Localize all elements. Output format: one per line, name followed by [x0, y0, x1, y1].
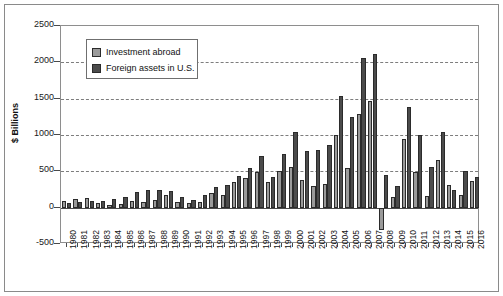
bar: [248, 168, 252, 208]
bar: [327, 145, 331, 207]
x-axis-tick-label: 1990: [182, 230, 191, 249]
x-axis-tick-label: 2016: [477, 230, 486, 249]
bar: [293, 132, 297, 208]
bar: [463, 171, 467, 207]
y-axis-tick-label: -500: [8, 238, 54, 247]
bar: [384, 175, 388, 208]
x-axis-tick-label: 2009: [398, 230, 407, 249]
bar: [452, 190, 456, 208]
bar: [429, 167, 433, 208]
bar: [67, 203, 71, 208]
x-axis-tick-label: 1983: [103, 230, 112, 249]
bar: [300, 180, 304, 208]
x-axis-tick-label: 1999: [284, 230, 293, 249]
bar: [436, 160, 440, 207]
bar: [271, 177, 275, 208]
chart-legend: Investment abroad Foreign assets in U.S.: [86, 39, 198, 79]
bar: [78, 202, 82, 208]
legend-item-investment-abroad: Investment abroad: [92, 44, 192, 60]
bar: [316, 150, 320, 208]
y-axis-tick-label: 1000: [8, 129, 54, 138]
x-axis-tick-label: 1980: [69, 230, 78, 249]
x-axis-tick-label: 2010: [409, 230, 418, 249]
bar: [187, 203, 191, 208]
bar: [232, 182, 236, 208]
bar: [164, 195, 168, 207]
bar: [289, 167, 293, 208]
x-axis-tick-label: 2007: [375, 230, 384, 249]
bar: [157, 190, 161, 208]
x-axis-tick-label: 2012: [432, 230, 441, 249]
bar: [191, 200, 195, 208]
bar: [243, 178, 247, 208]
x-axis-tick-label: 1993: [216, 230, 225, 249]
bar: [373, 54, 377, 207]
x-axis-tick-label: 2001: [307, 230, 316, 249]
bar-chart: $ Billions 25002000150010005000-500 1980…: [0, 0, 503, 296]
x-axis-tick-label: 2011: [420, 231, 429, 249]
bar: [119, 204, 123, 207]
bar: [379, 208, 383, 231]
legend-swatch-icon: [92, 48, 101, 57]
bar: [447, 185, 451, 208]
x-axis-tick-label: 1991: [194, 230, 203, 249]
bar: [153, 200, 157, 208]
x-axis-tick-label: 1984: [114, 230, 123, 249]
bar: [441, 132, 445, 208]
bar: [391, 197, 395, 208]
x-axis-tick-label: 2004: [341, 230, 350, 249]
bar: [225, 185, 229, 207]
x-axis-tick-label: 1986: [137, 230, 146, 249]
legend-label: Investment abroad: [106, 47, 181, 57]
x-axis-tick-label: 2008: [386, 230, 395, 249]
y-axis-tick-label: 2000: [8, 56, 54, 65]
bar: [425, 196, 429, 208]
x-axis-tick-label: 1989: [171, 230, 180, 249]
bar: [123, 197, 127, 207]
x-axis-tick-label: 2003: [330, 230, 339, 249]
bar: [323, 184, 327, 208]
bar: [198, 202, 202, 207]
x-axis-labels: 1980198119821983198419851986198719881989…: [60, 249, 479, 291]
bar: [361, 58, 365, 208]
bar: [73, 199, 77, 207]
bar: [470, 181, 474, 208]
bar: [339, 96, 343, 207]
figure-frame: $ Billions 25002000150010005000-500 1980…: [0, 0, 503, 296]
bar: [221, 195, 225, 208]
x-axis-tick-label: 2005: [352, 230, 361, 249]
x-axis-tick-label: 1985: [126, 230, 135, 249]
bar: [259, 156, 263, 207]
bar: [407, 107, 411, 208]
bar: [180, 197, 184, 207]
bar: [107, 205, 111, 208]
bar: [255, 172, 259, 207]
bar: [413, 172, 417, 207]
x-axis-tick-label: 1994: [228, 230, 237, 249]
bar: [418, 135, 422, 208]
bar: [214, 187, 218, 207]
bar: [90, 201, 94, 208]
x-axis-tick-label: 1995: [239, 230, 248, 249]
bar: [130, 201, 134, 208]
x-axis-tick-label: 1997: [262, 230, 271, 249]
x-axis-tick-label: 1998: [273, 230, 282, 249]
bar: [395, 186, 399, 208]
bar: [62, 201, 66, 207]
bar: [203, 195, 207, 207]
y-axis-tick-label: 1500: [8, 93, 54, 102]
bar: [357, 114, 361, 207]
bar: [277, 171, 281, 208]
legend-item-foreign-assets: Foreign assets in U.S.: [92, 60, 192, 76]
bar: [402, 139, 406, 208]
x-axis-tick-label: 1982: [92, 230, 101, 249]
bar: [237, 176, 241, 208]
x-axis-tick: [66, 243, 67, 247]
x-axis-tick-label: 2002: [318, 230, 327, 249]
x-axis-tick-label: 2000: [296, 230, 305, 249]
bar: [146, 190, 150, 208]
bar: [345, 168, 349, 208]
bar: [112, 199, 116, 207]
bar: [141, 202, 145, 208]
bar: [350, 117, 354, 208]
